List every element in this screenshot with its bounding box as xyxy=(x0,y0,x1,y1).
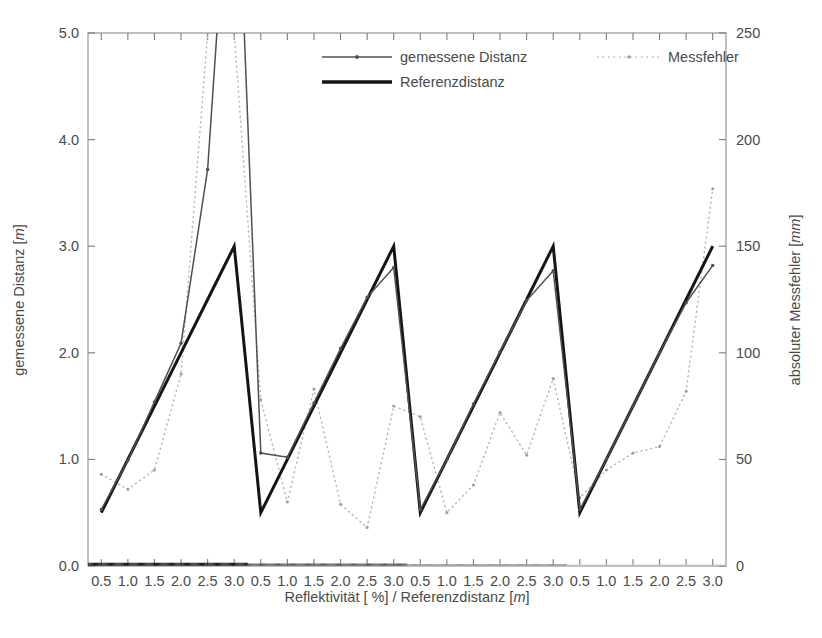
x-axis-title-plain: Reflektivität [ %] / Referenzdistanz [ xyxy=(285,589,514,605)
tick-label: 1.5 xyxy=(144,573,164,589)
x-axis-title: Reflektivität [ %] / Referenzdistanz [m] xyxy=(285,589,530,605)
data-point-marker xyxy=(206,168,209,171)
tick-label: 2.5 xyxy=(357,573,377,589)
messfehler-point xyxy=(525,454,528,457)
legend-item-gemessene-distanz: gemessene Distanz xyxy=(322,49,527,65)
data-point-marker xyxy=(419,508,422,511)
messfehler-point xyxy=(445,511,448,514)
tick-label: 2.0 xyxy=(490,573,510,589)
data-point-marker xyxy=(339,347,342,350)
data-point-marker xyxy=(552,269,555,272)
legend-swatch-dot-icon xyxy=(627,55,630,58)
x-axis-title-tail: ] xyxy=(525,589,529,605)
messfehler-point xyxy=(366,526,369,529)
tick-label: 1.0 xyxy=(437,573,457,589)
data-point-marker xyxy=(126,459,129,462)
tick-label: 2.0 xyxy=(649,573,669,589)
data-point-marker xyxy=(498,350,501,353)
tick-label: 2.0 xyxy=(330,573,350,589)
plot-frame xyxy=(88,33,726,566)
tick-label: 2.0 xyxy=(59,345,79,361)
tick-label: 0.5 xyxy=(570,573,590,589)
data-point-marker xyxy=(365,296,368,299)
messfehler-point xyxy=(499,411,502,414)
data-point-marker xyxy=(684,301,687,304)
y-axis-right-title: absoluter Messfehler [mm] xyxy=(787,215,803,386)
tick-label: 1.0 xyxy=(118,573,138,589)
data-point-marker xyxy=(711,264,714,267)
x-axis-title-unit: m xyxy=(513,589,525,605)
tick-label: 1.5 xyxy=(304,573,324,589)
messfehler-point xyxy=(472,483,475,486)
messfehler-point xyxy=(206,32,209,35)
y-axis-left-title-unit: m xyxy=(11,228,27,240)
tick-label: 4.0 xyxy=(59,132,79,148)
y-axis-right-ticks: 050100150200250 xyxy=(719,25,760,574)
data-point-marker xyxy=(605,458,608,461)
messfehler-point xyxy=(233,32,236,35)
data-point-marker xyxy=(179,342,182,345)
messfehler-point xyxy=(605,469,608,472)
tick-label: 3.0 xyxy=(384,573,404,589)
tick-label: 3.0 xyxy=(543,573,563,589)
tick-label: 1.0 xyxy=(277,573,297,589)
messfehler-series xyxy=(100,32,714,530)
y-axis-left-title: gemessene Distanz [m] xyxy=(11,224,27,376)
tick-label: 50 xyxy=(736,451,752,467)
tick-label: 2.5 xyxy=(676,573,696,589)
tick-label: 100 xyxy=(736,345,760,361)
y-axis-right-title-unit: mm xyxy=(787,219,803,243)
chart-legend: gemessene Distanz Referenzdistanz Messfe… xyxy=(322,49,739,90)
messfehler-point xyxy=(658,445,661,448)
legend-label-referenzdistanz: Referenzdistanz xyxy=(400,74,505,90)
data-point-marker xyxy=(472,402,475,405)
tick-label: 1.0 xyxy=(596,573,616,589)
tick-label: 200 xyxy=(736,132,760,148)
referenzdistanz-series xyxy=(101,246,712,513)
legend-swatch-marker-icon xyxy=(355,55,359,59)
tick-label: 5.0 xyxy=(59,25,79,41)
chart-figure: 0.01.02.03.04.05.0 050100150200250 0.51.… xyxy=(0,0,822,638)
messfehler-point xyxy=(392,405,395,408)
y-axis-left-title-tail: ] xyxy=(11,224,27,228)
messfehler-point xyxy=(711,187,714,190)
legend-label-gemessene-distanz: gemessene Distanz xyxy=(400,49,527,65)
tick-label: 2.5 xyxy=(517,573,537,589)
messfehler-point xyxy=(552,377,555,380)
messfehler-point xyxy=(286,501,289,504)
data-point-marker xyxy=(578,508,581,511)
tick-label: 3.0 xyxy=(224,573,244,589)
messfehler-point xyxy=(685,390,688,393)
tick-label: 3.0 xyxy=(703,573,723,589)
data-point-marker xyxy=(259,451,262,454)
messfehler-point xyxy=(153,469,156,472)
messfehler-point xyxy=(100,473,103,476)
tick-label: 0.5 xyxy=(251,573,271,589)
y-axis-right-title-tail: ] xyxy=(787,215,803,219)
tick-label: 0.5 xyxy=(91,573,111,589)
tick-label: 2.0 xyxy=(171,573,191,589)
chart-svg: 0.01.02.03.04.05.0 050100150200250 0.51.… xyxy=(0,0,822,638)
tick-label: 1.5 xyxy=(463,573,483,589)
legend-item-messfehler: Messfehler xyxy=(597,49,739,65)
messfehler-baseline-dots xyxy=(88,563,726,566)
messfehler-point xyxy=(180,373,183,376)
messfehler-point xyxy=(126,488,129,491)
data-point-marker xyxy=(658,351,661,354)
messfehler-point xyxy=(312,388,315,391)
tick-label: 150 xyxy=(736,238,760,254)
data-point-marker xyxy=(312,401,315,404)
data-point-marker xyxy=(286,456,289,459)
tick-label: 0.5 xyxy=(410,573,430,589)
tick-label: 2.5 xyxy=(198,573,218,589)
data-point-marker xyxy=(392,266,395,269)
messfehler-point xyxy=(259,398,262,401)
gemessene-distanz-markers xyxy=(100,168,715,511)
legend-label-messfehler: Messfehler xyxy=(668,49,739,65)
tick-label: 3.0 xyxy=(59,238,79,254)
y-axis-right-title-plain: absoluter Messfehler [ xyxy=(787,243,803,386)
data-point-marker xyxy=(153,400,156,403)
y-axis-left-ticks: 0.01.02.03.04.05.0 xyxy=(59,25,95,574)
tick-label: 1.0 xyxy=(59,451,79,467)
tick-label: 1.5 xyxy=(623,573,643,589)
